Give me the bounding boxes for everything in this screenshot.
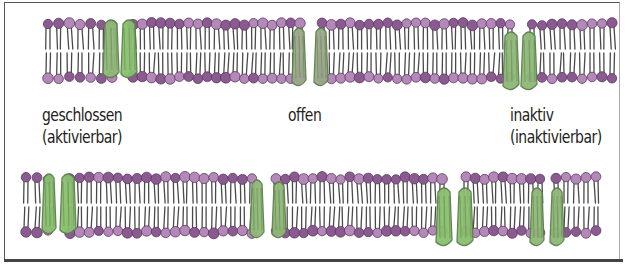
label-closed: geschlossen (aktivierbar) <box>42 104 122 148</box>
label-closed-note: (aktivierbar) <box>42 126 122 148</box>
label-inactive-note: (inaktivierbar) <box>510 126 602 148</box>
membrane-top-row <box>43 18 617 90</box>
label-inactive-state: inaktiv <box>510 104 602 126</box>
membrane-bottom-row <box>21 172 601 246</box>
label-closed-state: geschlossen <box>42 104 122 126</box>
label-open-state: offen <box>288 104 321 126</box>
label-inactive: inaktiv (inaktivierbar) <box>510 104 602 148</box>
label-open: offen <box>288 104 321 126</box>
